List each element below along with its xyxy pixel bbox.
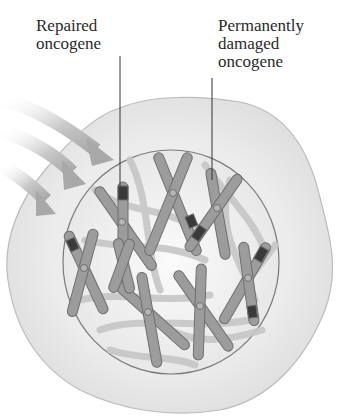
label-repaired-oncogene: Repaired oncogene bbox=[36, 17, 101, 53]
label-line: oncogene bbox=[218, 53, 304, 71]
label-line: oncogene bbox=[36, 35, 101, 53]
label-line: Repaired bbox=[36, 17, 101, 35]
label-line: Permanently bbox=[218, 17, 304, 35]
label-permanently-damaged-oncogene: Permanently damaged oncogene bbox=[218, 17, 304, 71]
label-line: damaged bbox=[218, 35, 304, 53]
